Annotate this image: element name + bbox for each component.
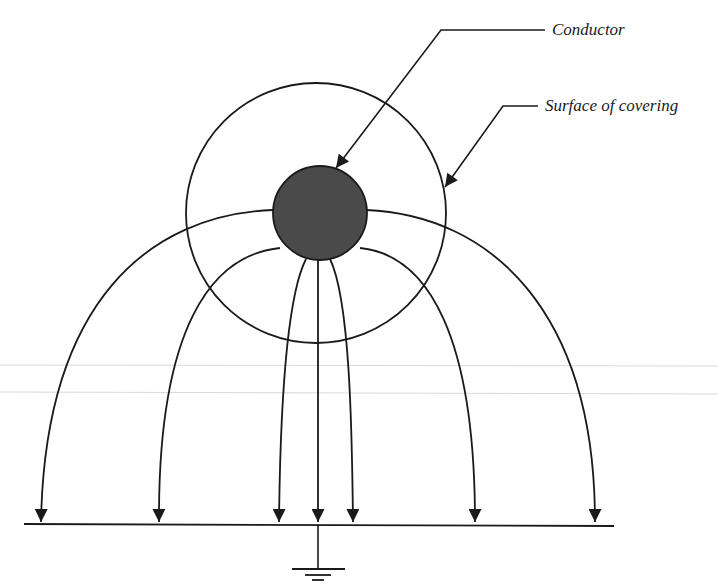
conductor-label: Conductor — [552, 21, 625, 38]
surface-leader-arrow — [445, 106, 538, 187]
electric-field-diagram — [0, 0, 718, 586]
field-line-center-left — [279, 259, 306, 522]
surface-of-covering-label: Surface of covering — [545, 97, 678, 114]
field-line-outer-left — [41, 210, 273, 522]
scan-artifact-line — [0, 365, 718, 366]
ground-symbol-icon — [292, 525, 345, 580]
scan-artifact-line — [0, 392, 718, 394]
ground-plane-line — [24, 524, 614, 526]
field-line-center-right — [330, 259, 353, 522]
conductor-leader-arrow — [336, 30, 545, 168]
conductor-circle — [273, 166, 367, 260]
field-line-second-left — [159, 248, 280, 522]
field-line-second-right — [360, 248, 475, 522]
